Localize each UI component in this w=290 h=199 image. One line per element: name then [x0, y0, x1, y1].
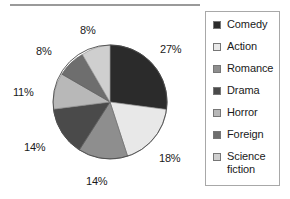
legend-item-science-fiction[interactable]: Science fiction [213, 150, 279, 176]
legend-swatch-foreign [213, 131, 221, 139]
pie-label-comedy: 27% [160, 43, 181, 55]
legend-item-action[interactable]: Action [213, 40, 279, 54]
legend-swatch-comedy [213, 21, 221, 29]
legend-item-foreign[interactable]: Foreign [213, 128, 279, 142]
pie-label-romance: 14% [86, 175, 107, 187]
legend-label-science-fiction: Science fiction [227, 150, 265, 176]
legend-label-drama: Drama [227, 84, 260, 97]
pie-label-drama: 14% [24, 141, 45, 153]
legend-swatch-science-fiction [213, 153, 221, 161]
legend-swatch-drama [213, 87, 221, 95]
pie-label-science-fiction: 8% [80, 24, 96, 36]
pie-label-action: 18% [159, 152, 180, 164]
legend-label-romance: Romance [227, 62, 273, 75]
legend-label-action: Action [227, 40, 257, 53]
legend-swatch-romance [213, 65, 221, 73]
pie-label-horror: 11% [13, 86, 34, 98]
pie-chart-figure: 27% 18% 14% 14% 11% 8% 8% Comedy Action … [0, 0, 290, 199]
legend-label-horror: Horror [227, 106, 258, 119]
legend-swatch-horror [213, 109, 221, 117]
legend-item-horror[interactable]: Horror [213, 106, 279, 120]
legend-item-drama[interactable]: Drama [213, 84, 279, 98]
pie-svg [0, 0, 200, 199]
pie-slice-comedy[interactable] [110, 45, 167, 110]
legend-item-comedy[interactable]: Comedy [213, 18, 279, 32]
legend-label-comedy: Comedy [227, 18, 267, 31]
legend-swatch-action [213, 43, 221, 51]
chart-legend: Comedy Action Romance Drama Horror Forei… [205, 11, 280, 186]
pie-plot-area: 27% 18% 14% 14% 11% 8% 8% [0, 0, 200, 199]
legend-label-foreign: Foreign [227, 128, 264, 141]
legend-item-romance[interactable]: Romance [213, 62, 279, 76]
pie-label-foreign: 8% [36, 45, 52, 57]
